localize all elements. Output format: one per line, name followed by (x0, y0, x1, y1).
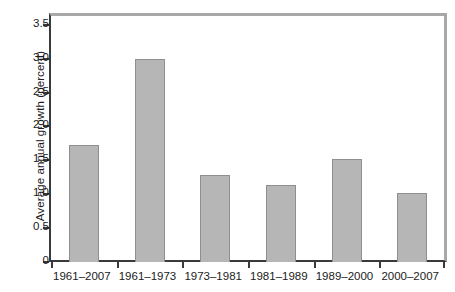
x-tick-label: 2000–2007 (377, 270, 443, 282)
y-tick-label: 0.5 (15, 220, 49, 232)
y-tick-label: 3.0 (15, 51, 49, 63)
x-tick-label: 1961–2007 (49, 270, 115, 282)
y-tick-label: 3.5 (15, 17, 49, 29)
x-tick-label: 1989–2000 (312, 270, 378, 282)
y-tick-label: 1.0 (15, 186, 49, 198)
x-tick-mark (248, 262, 250, 268)
bar (332, 159, 362, 262)
x-tick-label: 1981–1989 (246, 270, 312, 282)
y-tick-label: 0 (15, 254, 49, 266)
x-tick-mark (314, 262, 316, 268)
bars-layer (51, 16, 445, 262)
x-tick-label: 1973–1981 (180, 270, 246, 282)
bar (69, 145, 99, 262)
bar (135, 59, 165, 262)
x-axis-labels: 1961–20071961–19731973–19811981–19891989… (49, 270, 447, 290)
x-tick-mark (117, 262, 119, 268)
y-axis-ticks: 00.51.01.52.02.53.03.5 (0, 0, 49, 292)
x-tick-mark (443, 262, 445, 268)
y-tick-label: 2.0 (15, 118, 49, 130)
x-tick-mark (379, 262, 381, 268)
y-tick-label: 1.5 (15, 152, 49, 164)
x-tick-label: 1961–1973 (115, 270, 181, 282)
x-tick-mark (182, 262, 184, 268)
bar-chart: Average annual growth (percent) 00.51.01… (0, 0, 455, 292)
bar (200, 175, 230, 262)
y-tick-label: 2.5 (15, 85, 49, 97)
bar (397, 193, 427, 262)
x-tick-mark (51, 262, 53, 268)
bar (266, 185, 296, 262)
